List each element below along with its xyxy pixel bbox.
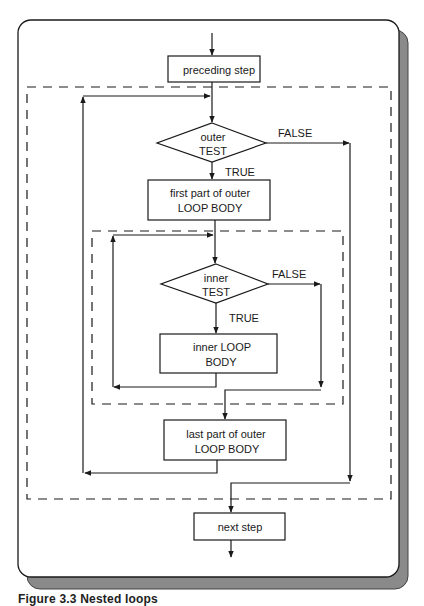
outer-false-label: FALSE [278,127,312,139]
inner-body-line2: BODY [205,356,237,368]
node-last-part: last part of outer LOOP BODY [164,420,286,460]
first-part-line2: LOOP BODY [178,202,243,214]
outer-test-line1: outer [200,131,225,143]
last-part-line2: LOOP BODY [195,443,260,455]
inner-true-label: TRUE [229,312,259,324]
node-inner-body: inner LOOP BODY [160,334,277,373]
node-next-step: next step [194,513,285,540]
figure-caption: Figure 3.3 Nested loops [18,592,158,606]
inner-test-line1: inner [204,272,229,284]
node-first-part: first part of outer LOOP BODY [148,180,270,220]
first-part-line1: first part of outer [170,187,250,199]
outer-test-line2: TEST [199,145,227,157]
last-part-line1: last part of outer [186,428,266,440]
node-preceding-step: preceding step [168,56,260,82]
preceding-step-label: preceding step [183,64,255,76]
inner-test-line2: TEST [202,286,230,298]
outer-true-label: TRUE [225,166,255,178]
next-step-label: next step [218,521,263,533]
inner-false-label: FALSE [272,268,306,280]
inner-body-line1: inner LOOP [193,341,251,353]
